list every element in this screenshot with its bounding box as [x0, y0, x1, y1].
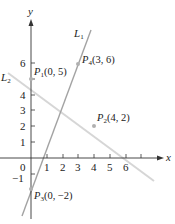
x-tick-label: 6	[123, 161, 129, 173]
x-tick-label: 3	[75, 161, 81, 173]
x-tick-label: 1	[44, 161, 50, 173]
point-p4	[76, 62, 80, 66]
y-tick-label: 2	[20, 120, 26, 132]
x-ticks	[47, 154, 141, 158]
y-tick-label: 3	[20, 104, 26, 116]
point-p3-label: P3(0, −2)	[33, 190, 73, 203]
point-p1-label: P1(0, 5)	[33, 66, 67, 79]
line-l2	[8, 73, 154, 181]
y-tick-label: 4	[20, 89, 26, 101]
y-tick-label-neg: −1	[12, 172, 24, 184]
line-l1-label: L1	[73, 27, 84, 41]
y-axis-label: y	[27, 5, 33, 17]
x-axis-label: x	[165, 151, 171, 163]
point-p1	[29, 77, 33, 81]
point-p2	[92, 124, 96, 128]
x-axis-arrow-icon	[157, 156, 164, 161]
point-p4-label: P4(3, 6)	[81, 54, 115, 67]
y-axis-arrow-icon	[29, 19, 34, 26]
y-tick-label: 6	[20, 57, 26, 69]
x-tick-label: 2	[60, 161, 66, 173]
point-p3	[29, 187, 33, 191]
coordinate-plane: 1 2 3 4 5 6 0 1 2 3 4 6 −1 x y L1 L2 P1(…	[0, 0, 175, 224]
x-tick-label: 4	[91, 161, 97, 173]
x-tick-label: 5	[107, 161, 113, 173]
point-p2-label: P2(4, 2)	[96, 112, 130, 125]
y-tick-label: 1	[20, 136, 26, 148]
